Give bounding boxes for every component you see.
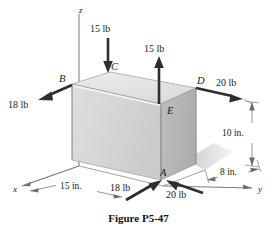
dim-label-z-10in: 10 in. <box>222 129 244 139</box>
force-label-a-up-right: 18 lb <box>110 183 130 193</box>
dim-extension-top <box>243 99 252 104</box>
force-arrow-a-up-right <box>126 180 162 200</box>
dim-label-x-15in: 15 in. <box>60 182 82 192</box>
force-arrow-b-out <box>38 85 72 101</box>
figure-p5-47: z x y A B C D E 15 lb 15 lb 18 lb 20 lb … <box>0 0 277 232</box>
figure-drawing <box>0 0 277 232</box>
point-label-c: C <box>111 62 118 73</box>
force-label-d-out: 20 lb <box>216 78 236 88</box>
force-arrow-d-out <box>196 88 243 103</box>
point-label-d: D <box>197 76 205 87</box>
box-face-right <box>161 88 196 180</box>
point-label-a: A <box>160 168 166 179</box>
force-label-b-out: 18 lb <box>8 100 28 110</box>
force-label-e-up: 15 lb <box>144 44 164 54</box>
figure-caption: Figure P5-47 <box>0 212 277 224</box>
dim-label-y-8in: 8 in. <box>220 168 237 178</box>
point-label-e: E <box>167 106 173 117</box>
axis-y-arrowhead <box>243 185 252 190</box>
axis-label-x: x <box>13 185 17 194</box>
point-label-b: B <box>59 74 65 85</box>
force-label-a-left: 20 lb <box>166 190 186 200</box>
force-label-c-down: 15 lb <box>90 24 110 34</box>
axis-label-z: z <box>79 6 83 15</box>
axis-label-y: y <box>258 185 262 194</box>
dim-line-z-10in <box>245 101 259 167</box>
